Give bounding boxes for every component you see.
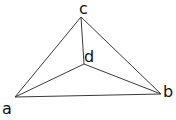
vertex-label-b: b [163, 84, 173, 100]
edge-a-c [15, 17, 81, 97]
vertex-label-c: c [79, 1, 88, 17]
vertex-label-d: d [84, 49, 94, 65]
edge-b-d [84, 64, 161, 94]
vertex-label-a: a [2, 101, 12, 117]
edge-a-d [15, 64, 84, 97]
edge-a-b [15, 94, 161, 97]
